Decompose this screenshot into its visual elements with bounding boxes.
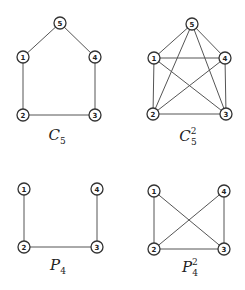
node-4: 4: [219, 52, 231, 64]
node-2: 2: [147, 108, 159, 120]
graph-caption: P4: [49, 256, 66, 276]
node-label: 1: [21, 54, 26, 62]
node-4: 4: [218, 185, 230, 197]
node-label: 3: [222, 246, 227, 254]
graph-caption: C25: [179, 126, 197, 147]
node-label: 5: [190, 21, 195, 29]
edge-1-5: [23, 23, 60, 57]
node-3: 3: [91, 241, 103, 253]
node-1: 1: [17, 51, 29, 63]
node-3: 3: [218, 243, 230, 255]
edge-4-3: [225, 58, 226, 114]
node-4: 4: [89, 51, 101, 63]
node-label: 2: [152, 246, 157, 254]
graph-c5: 12345C5: [17, 17, 101, 146]
edge-2-5: [153, 24, 192, 114]
node-label: 4: [95, 186, 100, 194]
node-label: 3: [224, 111, 229, 119]
node-label: 4: [223, 55, 228, 63]
node-2: 2: [18, 241, 30, 253]
node-1: 1: [148, 52, 160, 64]
edge-5-4: [192, 24, 225, 58]
graph-caption: C5: [48, 126, 65, 146]
node-3: 3: [220, 108, 232, 120]
node-1: 1: [18, 183, 30, 195]
graph-c5-squared: 12345C25: [147, 18, 232, 147]
edge-2-1: [153, 58, 154, 114]
node-1: 1: [148, 185, 160, 197]
graph-caption: P24: [181, 257, 198, 278]
node-5: 5: [186, 18, 198, 30]
edge-1-5: [154, 24, 192, 58]
node-label: 2: [21, 112, 26, 120]
node-2: 2: [17, 109, 29, 121]
graph-diagram-canvas: 12345C512345C251234P41234P24: [0, 0, 245, 290]
graph-p4-squared: 1234P24: [148, 185, 230, 278]
node-label: 1: [152, 188, 157, 196]
node-label: 2: [151, 111, 156, 119]
node-label: 1: [152, 55, 157, 63]
node-4: 4: [91, 183, 103, 195]
graph-p4: 1234P4: [18, 183, 103, 276]
edge-2-4: [153, 58, 225, 114]
edge-5-4: [60, 23, 95, 57]
node-5: 5: [54, 17, 66, 29]
node-label: 3: [93, 112, 98, 120]
node-label: 4: [222, 188, 227, 196]
node-label: 3: [95, 244, 100, 252]
node-label: 2: [22, 244, 27, 252]
node-label: 4: [93, 54, 98, 62]
node-label: 5: [58, 20, 63, 28]
node-2: 2: [148, 243, 160, 255]
node-3: 3: [89, 109, 101, 121]
node-label: 1: [22, 186, 27, 194]
